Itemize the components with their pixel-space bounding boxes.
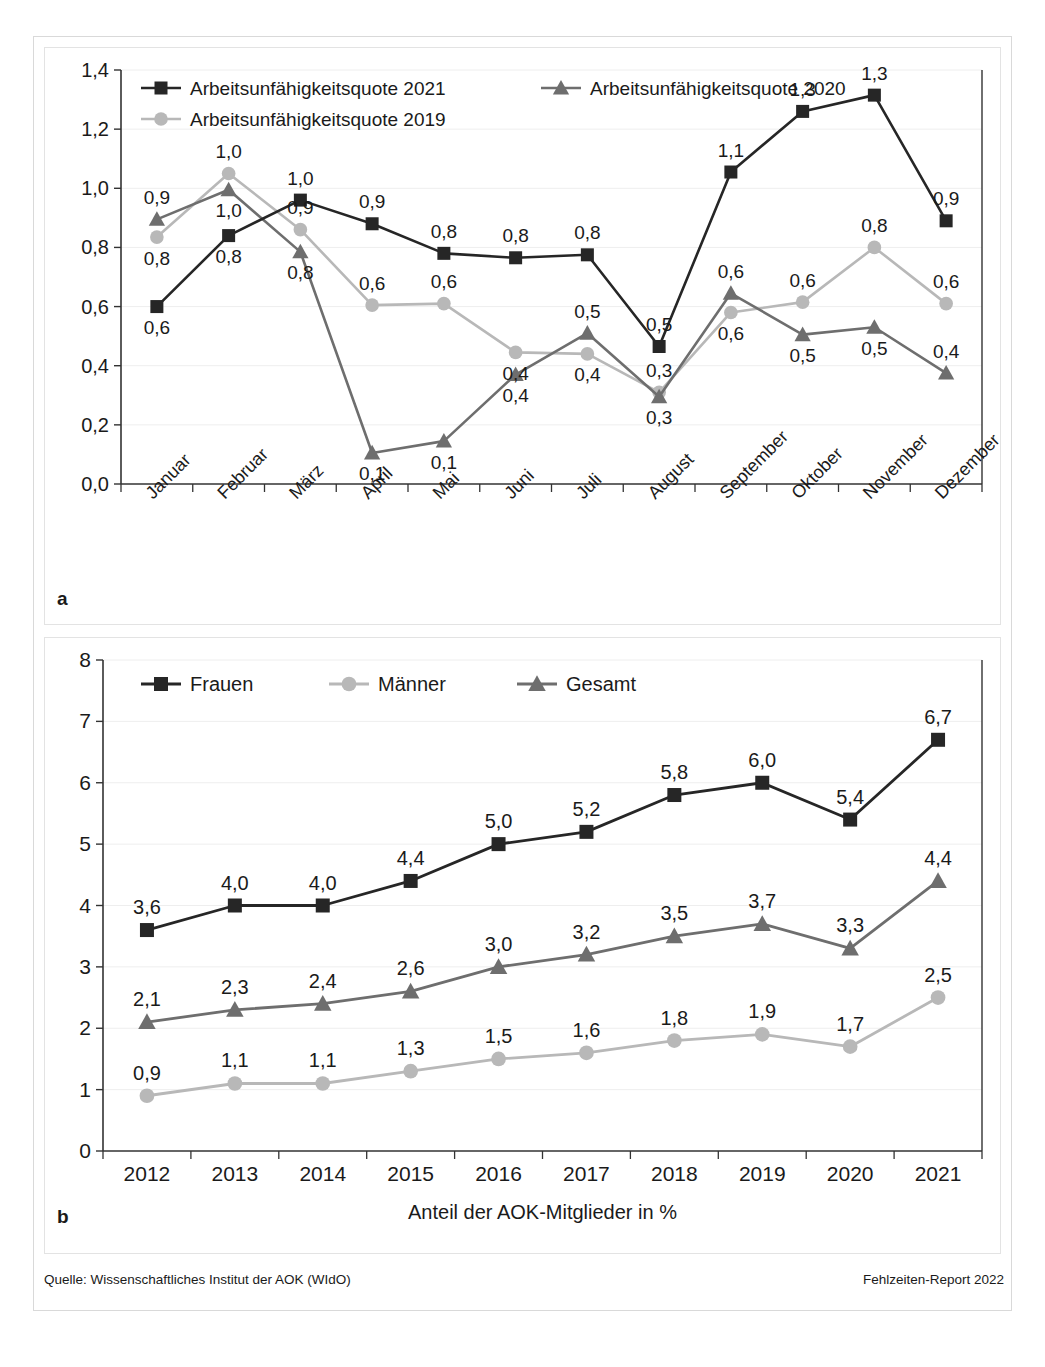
x-tick-label: Januar — [142, 450, 195, 503]
data-point-label: 0,3 — [646, 407, 672, 428]
y-tick-label: 0,0 — [81, 473, 109, 495]
x-tick-label: 2020 — [827, 1162, 874, 1185]
series-marker — [931, 990, 946, 1005]
series-marker — [940, 214, 953, 227]
series-marker — [939, 297, 953, 311]
data-point-label: 0,8 — [574, 222, 600, 243]
data-point-label: 1,1 — [221, 1049, 249, 1071]
data-point-label: 0,6 — [933, 271, 959, 292]
series-marker — [754, 915, 772, 931]
chart-a-canvas: 0,60,81,00,90,80,80,80,51,11,31,30,90,91… — [45, 48, 1000, 624]
data-point-label: 1,7 — [836, 1013, 864, 1035]
data-point-label: 0,6 — [431, 271, 457, 292]
chart-panel-b: 3,64,04,04,45,05,25,86,05,46,70,91,11,11… — [44, 637, 1001, 1254]
panel-b-letter: b — [57, 1206, 69, 1228]
x-tick-label: September — [716, 426, 792, 502]
y-tick-label: 0,2 — [81, 414, 109, 436]
x-tick-label: Oktober — [787, 443, 846, 502]
series-marker — [724, 166, 737, 179]
data-point-label: 3,7 — [748, 890, 776, 912]
series-marker — [755, 776, 769, 790]
y-tick-label: 3 — [79, 955, 91, 978]
legend-item[interactable]: Arbeitsunfähigkeitsquote 2019 — [141, 109, 446, 130]
series-marker — [404, 874, 418, 888]
data-point-label: 4,0 — [221, 872, 249, 894]
data-point-label: 1,1 — [309, 1049, 337, 1071]
data-point-label: 0,6 — [144, 317, 170, 338]
series-marker — [315, 1076, 330, 1091]
x-tick-label: Juni — [500, 465, 537, 502]
figure-footer: Quelle: Wissenschaftliches Institut der … — [44, 1272, 1004, 1294]
data-point-label: 0,8 — [215, 246, 241, 267]
y-tick-label: 0 — [79, 1139, 91, 1162]
legend-item[interactable]: Frauen — [141, 673, 253, 695]
legend-item[interactable]: Gesamt — [517, 673, 636, 695]
data-point-label: 3,5 — [660, 902, 688, 924]
series-marker — [221, 182, 237, 197]
series-marker — [796, 295, 810, 309]
series-marker — [667, 1033, 682, 1048]
series-marker — [437, 247, 450, 260]
x-tick-label: März — [285, 460, 327, 502]
series-marker — [222, 229, 235, 242]
x-tick-label: 2016 — [475, 1162, 522, 1185]
legend-marker — [154, 677, 168, 691]
series-marker — [403, 1064, 418, 1079]
x-axis-title: Anteil der AOK-Mitglieder in % — [408, 1201, 677, 1223]
data-point-label: 0,8 — [287, 262, 313, 283]
legend-label: Arbeitsunfähigkeitsquote 2020 — [590, 78, 846, 99]
data-point-label: 6,7 — [924, 706, 952, 728]
data-point-label: 2,1 — [133, 988, 161, 1010]
data-point-label: 2,6 — [397, 957, 425, 979]
series-marker — [492, 837, 506, 851]
series-line — [157, 95, 946, 346]
data-point-label: 1,9 — [748, 1000, 776, 1022]
legend-item[interactable]: Arbeitsunfähigkeitsquote 2021 — [141, 78, 446, 99]
legend-item[interactable]: Männer — [329, 673, 446, 695]
series-marker — [365, 298, 379, 312]
y-tick-label: 6 — [79, 771, 91, 794]
data-point-label: 0,4 — [502, 363, 529, 384]
x-tick-label: November — [859, 430, 932, 503]
x-tick-label: Februar — [213, 444, 272, 503]
series-marker — [938, 365, 954, 380]
data-point-label: 2,4 — [309, 970, 337, 992]
data-point-label: 1,8 — [660, 1007, 688, 1029]
series-marker — [931, 733, 945, 747]
data-point-label: 6,0 — [748, 749, 776, 771]
legend-item[interactable]: Arbeitsunfähigkeitsquote 2020 — [541, 78, 846, 99]
data-point-label: 1,0 — [287, 168, 313, 189]
data-point-label: 0,4 — [502, 385, 529, 406]
series-marker — [509, 346, 523, 360]
legend-label: Frauen — [190, 673, 253, 695]
series-marker — [868, 89, 881, 102]
series-line — [157, 174, 946, 393]
x-tick-label: Mai — [429, 468, 464, 503]
series-marker — [868, 241, 882, 255]
y-tick-label: 7 — [79, 709, 91, 732]
x-tick-label: Juli — [572, 470, 605, 503]
tick-labels: 0123456782012201320142015201620172018201… — [79, 648, 961, 1223]
figure-root: 0,60,81,00,90,80,80,80,51,11,31,30,90,91… — [0, 0, 1045, 1367]
data-point-label: 0,9 — [144, 187, 170, 208]
series-group — [149, 89, 955, 460]
data-point-label: 4,0 — [309, 872, 337, 894]
data-point-label: 0,6 — [718, 261, 744, 282]
source-label: Quelle: Wissenschaftliches Institut der … — [44, 1272, 351, 1287]
data-point-label: 0,4 — [933, 341, 960, 362]
data-point-label: 1,6 — [573, 1019, 601, 1041]
series-marker — [509, 251, 522, 264]
x-tick-label: 2014 — [299, 1162, 346, 1185]
data-point-label: 0,5 — [789, 345, 815, 366]
series-marker — [581, 248, 594, 261]
data-point-label: 5,0 — [485, 810, 513, 832]
y-tick-label: 0,8 — [81, 236, 109, 258]
data-point-label: 0,6 — [359, 273, 385, 294]
series-line — [147, 740, 938, 930]
data-point-label: 5,2 — [573, 798, 601, 820]
series-marker — [437, 297, 451, 311]
data-point-label: 0,5 — [861, 338, 887, 359]
data-point-label: 0,5 — [646, 314, 672, 335]
series-marker — [843, 1039, 858, 1054]
data-point-label: 1,0 — [215, 200, 241, 221]
